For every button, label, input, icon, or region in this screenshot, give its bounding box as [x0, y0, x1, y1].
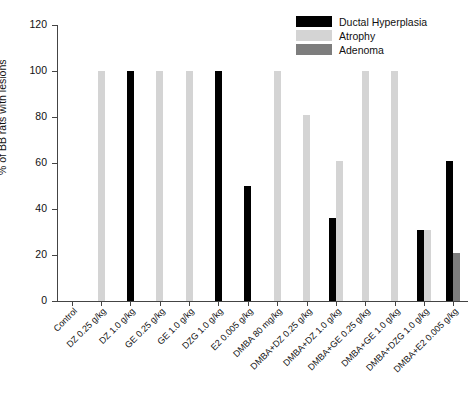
y-tick-label: 0: [13, 295, 47, 306]
plot-area: [57, 25, 468, 301]
y-tick-label: 40: [13, 203, 47, 214]
x-axis-line: [57, 301, 468, 302]
chart-legend: Ductal HyperplasiaAtrophyAdenoma: [296, 15, 427, 57]
y-axis-title: % of BB rats with lesions: [0, 59, 8, 175]
y-tick-mark: [52, 301, 57, 302]
bar: [453, 253, 460, 301]
bar: [336, 161, 343, 301]
bar: [186, 71, 193, 301]
bar: [215, 71, 222, 301]
bar: [98, 71, 105, 301]
bar: [446, 161, 453, 301]
legend-label: Adenoma: [339, 44, 384, 56]
bar: [156, 71, 163, 301]
bar: [303, 115, 310, 301]
bar-chart: % of BB rats with lesions 02040608010012…: [0, 0, 473, 395]
legend-swatch-adenoma: [296, 44, 332, 55]
bar: [362, 71, 369, 301]
bar: [127, 71, 134, 301]
legend-item: Adenoma: [296, 43, 427, 56]
bar: [274, 71, 281, 301]
legend-item: Atrophy: [296, 29, 427, 42]
bar: [424, 230, 431, 301]
y-tick-label: 60: [13, 157, 47, 168]
bar: [244, 186, 251, 301]
y-tick-label: 100: [13, 65, 47, 76]
y-tick-label: 80: [13, 111, 47, 122]
legend-item: Ductal Hyperplasia: [296, 15, 427, 28]
legend-swatch-ductal-hyperplasia: [296, 16, 332, 27]
bar: [391, 71, 398, 301]
legend-label: Atrophy: [339, 30, 375, 42]
legend-label: Ductal Hyperplasia: [339, 16, 427, 28]
legend-swatch-atrophy: [296, 30, 332, 41]
bar: [329, 218, 336, 301]
y-tick-label: 120: [13, 19, 47, 30]
bar: [417, 230, 424, 301]
y-tick-label: 20: [13, 249, 47, 260]
